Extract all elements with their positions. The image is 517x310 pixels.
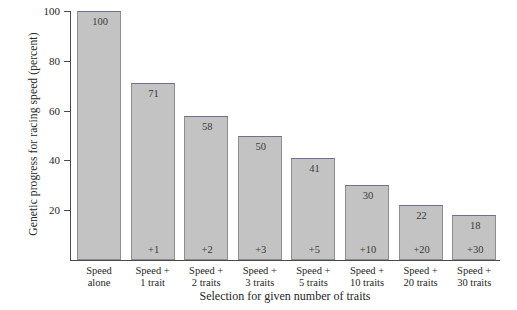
y-axis-tick-mark [64, 61, 71, 62]
bar[interactable]: 30+10 [345, 185, 389, 260]
bar[interactable]: 58+2 [184, 116, 228, 260]
bar-slot: 50+3 [238, 136, 282, 261]
y-axis-tick-mark [64, 210, 71, 211]
y-axis-tick-label: 80 [20, 56, 60, 67]
bar-slot: 41+5 [291, 158, 335, 260]
bar[interactable]: 41+5 [291, 158, 335, 260]
bar-delta-label: +2 [185, 245, 229, 256]
bar-slot: 22+20 [399, 205, 443, 260]
bar[interactable]: 71+1 [131, 83, 175, 260]
y-axis-tick-mark [64, 160, 71, 161]
y-axis-tick-mark [64, 11, 71, 12]
bar-slot: 18+30 [452, 215, 496, 260]
x-axis-title: Selection for given number of traits [70, 289, 500, 304]
x-axis-category-label: Speed +30 traits [438, 265, 510, 289]
bar[interactable]: 50+3 [238, 136, 282, 261]
y-axis-tick-label: 60 [20, 106, 60, 117]
bar-delta-label: +5 [292, 245, 336, 256]
bar[interactable]: 22+20 [399, 205, 443, 260]
bar[interactable]: 18+30 [452, 215, 496, 260]
bar-value-label: 100 [78, 17, 122, 28]
plot-area: 10071+158+250+341+530+1022+2018+30 [71, 11, 500, 260]
bar-slot: 100 [77, 11, 121, 260]
bar-value-label: 71 [132, 89, 176, 100]
bar-slot: 58+2 [184, 116, 228, 260]
bar-value-label: 58 [185, 122, 229, 133]
x-axis-line [70, 260, 500, 261]
bar-chart-figure: Genetic progress for racing speed (perce… [0, 0, 517, 310]
y-axis-tick-label: 20 [20, 205, 60, 216]
bar[interactable]: 100 [77, 11, 121, 260]
y-axis-tick-label: 40 [20, 155, 60, 166]
y-axis-tick-label: 100 [20, 6, 60, 17]
bar-delta-label: +1 [132, 245, 176, 256]
bar-delta-label: +3 [239, 245, 283, 256]
bar-value-label: 18 [453, 221, 497, 232]
y-axis-tick-mark [64, 111, 71, 112]
bar-value-label: 30 [346, 191, 390, 202]
y-axis-title: Genetic progress for racing speed (perce… [27, 9, 39, 259]
bar-slot: 71+1 [131, 83, 175, 260]
bar-value-label: 41 [292, 164, 336, 175]
bar-delta-label: +10 [346, 245, 390, 256]
category-label-line2: 30 traits [438, 277, 510, 289]
bar-value-label: 50 [239, 142, 283, 153]
bar-delta-label: +20 [400, 245, 444, 256]
bar-delta-label: +30 [453, 245, 497, 256]
bar-value-label: 22 [400, 211, 444, 222]
category-label-line1: Speed + [438, 265, 510, 277]
bar-slot: 30+10 [345, 185, 389, 260]
